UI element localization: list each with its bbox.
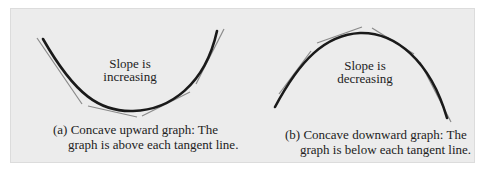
caption-a: (a) Concave upward graph: The graph is a…	[53, 122, 238, 152]
slope-increasing-label: Slope is increasing	[95, 57, 165, 83]
caption-line: graph is below each tangent line.	[285, 142, 471, 157]
caption-line: (b) Concave downward graph: The	[285, 127, 467, 142]
label-line: increasing	[95, 70, 165, 83]
caption-line: graph is above each tangent line.	[53, 137, 238, 152]
slope-decreasing-label: Slope is decreasing	[330, 59, 400, 85]
label-line: decreasing	[330, 72, 400, 85]
caption-line: (a) Concave upward graph: The	[53, 122, 218, 137]
tangent-line	[37, 38, 82, 104]
caption-b: (b) Concave downward graph: The graph is…	[285, 127, 471, 157]
tangent-line	[317, 27, 362, 43]
